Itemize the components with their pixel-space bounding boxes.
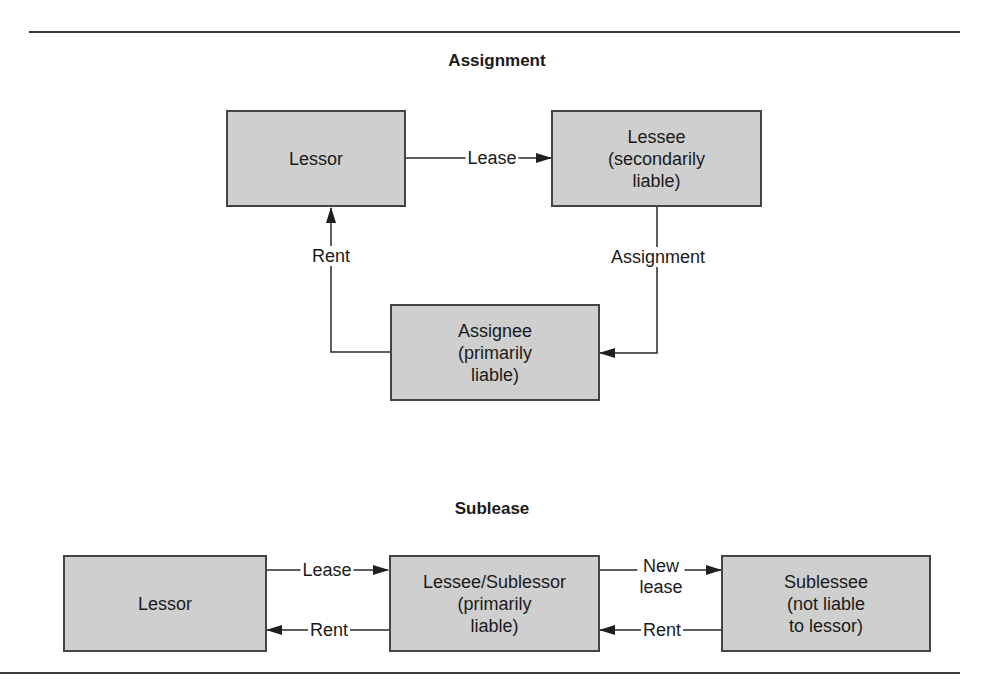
new-lease-line-1: New <box>639 556 682 577</box>
new-lease-label: New lease <box>637 556 684 598</box>
sublessee-rent-label: Rent <box>641 620 683 640</box>
box-label: Lessor <box>289 148 343 170</box>
sublease-lease-label: Lease <box>300 560 353 580</box>
box-label: Lessee <box>627 126 685 148</box>
box-label: liable) <box>632 170 680 192</box>
sublease-lessor-box: Lessor <box>63 555 267 652</box>
assignment-arrow <box>600 207 657 353</box>
assignment-edge-label: Assignment <box>609 247 707 267</box>
assignment-title: Assignment <box>448 51 545 71</box>
box-label: Lessee/Sublessor <box>423 571 566 593</box>
box-label: Assignee <box>458 320 532 342</box>
box-label: to lessor) <box>789 615 863 637</box>
box-label: (primarily <box>458 593 532 615</box>
box-label: liable) <box>471 364 519 386</box>
assignment-lessor-box: Lessor <box>226 110 406 207</box>
box-label: Sublessee <box>784 571 868 593</box>
sublease-rent-label: Rent <box>308 620 350 640</box>
sublessor-box: Lessee/Sublessor (primarily liable) <box>389 555 600 652</box>
box-label: (secondarily <box>608 148 705 170</box>
box-label: (not liable <box>787 593 865 615</box>
rent-arrow <box>331 208 391 352</box>
assignment-assignee-box: Assignee (primarily liable) <box>390 304 600 401</box>
lease-label: Lease <box>465 148 518 168</box>
rent-label: Rent <box>310 246 352 266</box>
new-lease-line-2: lease <box>639 577 682 598</box>
box-label: liable) <box>470 615 518 637</box>
box-label: (primarily <box>458 342 532 364</box>
sublessee-box: Sublessee (not liable to lessor) <box>721 555 931 652</box>
assignment-lessee-box: Lessee (secondarily liable) <box>551 110 762 207</box>
box-label: Lessor <box>138 593 192 615</box>
sublease-title: Sublease <box>455 499 530 519</box>
